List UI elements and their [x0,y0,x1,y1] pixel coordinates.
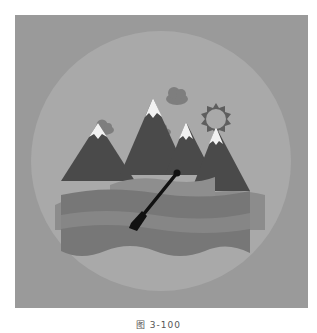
canoe-mountain-illustration [15,15,308,308]
illustration-frame [15,15,308,308]
figure-caption: 图 3-100 [0,318,317,331]
